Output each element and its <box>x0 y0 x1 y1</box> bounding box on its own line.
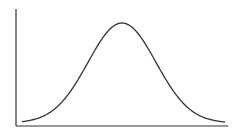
bell-curve-line <box>22 23 225 122</box>
bell-curve-chart <box>0 0 246 137</box>
